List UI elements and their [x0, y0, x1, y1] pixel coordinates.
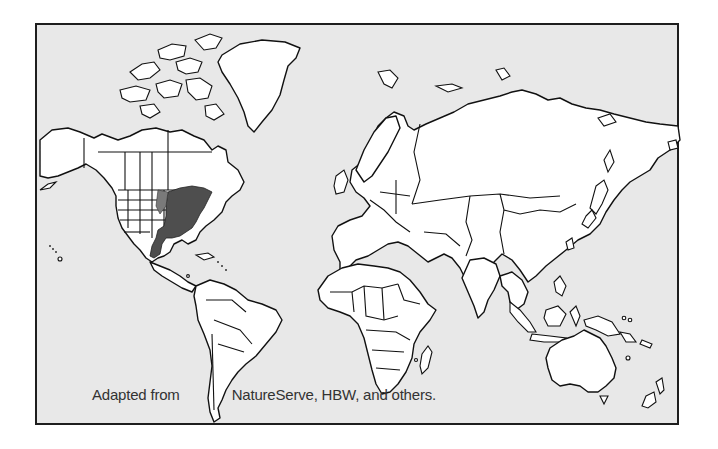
- madagascar: [420, 346, 432, 374]
- africa: [318, 264, 436, 394]
- north-america: [40, 128, 244, 262]
- new-zealand: [642, 378, 664, 408]
- world-map: [0, 0, 718, 449]
- southeast-asia: [500, 272, 528, 310]
- aleutian-islands: [40, 182, 56, 190]
- british-isles: [334, 170, 348, 194]
- maritime-southeast-asia: [510, 276, 636, 342]
- caption-part2: NatureServe, HBW, and others.: [232, 386, 436, 403]
- tasmania: [600, 396, 608, 404]
- map-caption: Adapted fromNatureServe, HBW, and others…: [92, 386, 436, 403]
- arctic-islands: [120, 34, 224, 120]
- caribbean-islands: [196, 253, 227, 271]
- greenland: [218, 40, 300, 132]
- caption-part1: Adapted from: [92, 386, 180, 403]
- india: [462, 258, 500, 318]
- hawaiian-islands: [49, 245, 62, 261]
